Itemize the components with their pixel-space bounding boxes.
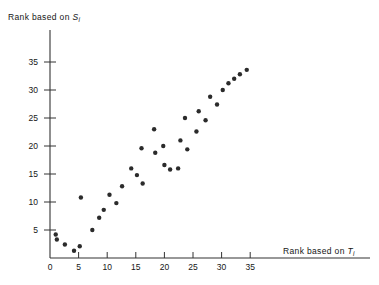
data-point: [238, 72, 242, 76]
x-tick-label: 5: [76, 262, 81, 272]
y-tick-label: 20: [29, 141, 39, 151]
data-point: [55, 237, 59, 241]
data-point: [54, 232, 58, 236]
data-point: [152, 127, 156, 131]
data-point: [72, 249, 76, 253]
x-tick-label: 35: [245, 262, 255, 272]
data-point: [153, 151, 157, 155]
y-tick-label: 25: [29, 113, 39, 123]
data-point: [221, 88, 225, 92]
data-point: [140, 181, 144, 185]
data-point: [226, 81, 230, 85]
y-axis-ticks: 5101520253035: [29, 57, 56, 235]
plot-canvas: 5101520253035 05101520253035: [0, 0, 379, 285]
y-tick-label: 30: [29, 85, 39, 95]
x-tick-label: 15: [131, 262, 141, 272]
data-point: [120, 184, 124, 188]
x-tick-label: 20: [160, 262, 170, 272]
scatter-plot-figure: Rank based on Si Rank based on Ti 510152…: [0, 0, 379, 285]
data-point: [232, 77, 236, 81]
data-point: [178, 138, 182, 142]
data-points: [54, 68, 249, 253]
y-tick-label: 10: [29, 197, 39, 207]
data-point: [79, 195, 83, 199]
data-point: [107, 193, 111, 197]
y-tick-label: 15: [29, 169, 39, 179]
data-point: [197, 109, 201, 113]
x-tick-label: 30: [217, 262, 227, 272]
x-tick-label: 25: [188, 262, 198, 272]
data-point: [168, 167, 172, 171]
data-point: [97, 215, 101, 219]
data-point: [135, 173, 139, 177]
data-point: [194, 129, 198, 133]
y-tick-label: 35: [29, 57, 39, 67]
data-point: [208, 95, 212, 99]
data-point: [114, 201, 118, 205]
x-tick-label: 10: [102, 262, 112, 272]
y-tick-label: 5: [33, 225, 38, 235]
x-axis-ticks: 05101520253035: [48, 252, 256, 272]
data-point: [78, 244, 82, 248]
data-point: [90, 228, 94, 232]
data-point: [129, 166, 133, 170]
x-tick-label: 0: [48, 262, 53, 272]
data-point: [203, 118, 207, 122]
data-point: [183, 116, 187, 120]
data-point: [63, 242, 67, 246]
data-point: [176, 166, 180, 170]
data-point: [185, 147, 189, 151]
axis-lines: [50, 30, 370, 258]
data-point: [162, 163, 166, 167]
data-point: [245, 68, 249, 72]
data-point: [161, 144, 165, 148]
data-point: [139, 146, 143, 150]
data-point: [102, 208, 106, 212]
data-point: [215, 102, 219, 106]
